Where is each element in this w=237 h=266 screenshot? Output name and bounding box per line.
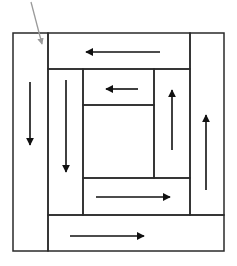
pieces-group: [13, 33, 224, 251]
top-band-rect: [48, 33, 190, 69]
pointer-group: [31, 2, 42, 44]
log-cabin-diagram: [0, 0, 237, 266]
center-square-rect: [83, 105, 154, 178]
arrows-group: [30, 52, 206, 236]
inner-top-band-rect: [83, 69, 154, 105]
bottom-band-rect: [48, 215, 224, 251]
right-column-rect: [190, 33, 224, 215]
pointer-arrow-icon: [31, 2, 42, 44]
